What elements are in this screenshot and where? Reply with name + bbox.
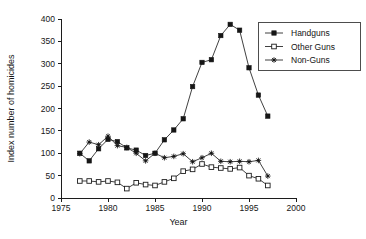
y-tick-label: 250	[41, 81, 55, 91]
series-handguns	[78, 22, 270, 163]
y-axis-ticks: 050100150200250300350400	[41, 14, 61, 203]
x-tick-label: 1975	[52, 203, 71, 213]
y-axis-title: Index number of homicides	[6, 54, 16, 163]
y-tick-label: 300	[41, 59, 55, 69]
y-tick-label: 100	[41, 148, 55, 158]
legend-label: Handguns	[291, 28, 330, 38]
x-tick-label: 2000	[287, 203, 306, 213]
x-tick-label: 1985	[146, 203, 165, 213]
y-tick-label: 200	[41, 104, 55, 114]
y-tick-label: 400	[41, 14, 55, 24]
x-tick-label: 1980	[99, 203, 118, 213]
x-tick-label: 1990	[193, 203, 212, 213]
y-tick-label: 50	[46, 171, 56, 181]
y-tick-label: 150	[41, 126, 55, 136]
series-layer	[77, 22, 271, 191]
chart-legend: HandgunsOther GunsNon-Guns	[258, 22, 360, 70]
legend-label: Other Guns	[291, 42, 335, 52]
y-tick-label: 350	[41, 36, 55, 46]
y-tick-label: 0	[50, 193, 55, 203]
x-tick-label: 1995	[240, 203, 259, 213]
series-other-guns	[78, 162, 271, 191]
chart-figure: 050100150200250300350400 197519801985199…	[0, 0, 366, 239]
x-axis-ticks: 197519801985199019952000	[52, 198, 306, 213]
line-chart: 050100150200250300350400 197519801985199…	[0, 0, 366, 239]
x-axis-title: Year	[169, 217, 187, 227]
legend-label: Non-Guns	[291, 55, 330, 65]
